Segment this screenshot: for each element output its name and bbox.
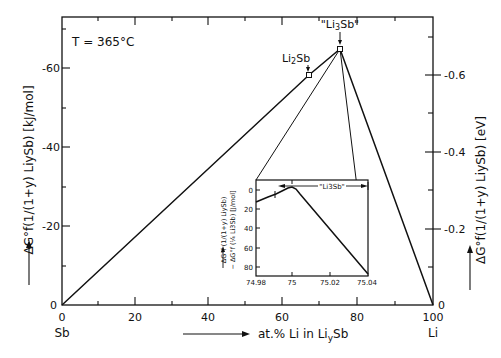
svg-text:ΔG°f (1/(1+y) LiySb): ΔG°f (1/(1+y) LiySb) <box>220 197 228 264</box>
svg-text:60: 60 <box>275 311 289 324</box>
svg-text:20: 20 <box>128 311 142 324</box>
svg-text:-0.2: -0.2 <box>444 223 465 236</box>
svg-text:0: 0 <box>438 299 445 312</box>
svg-text:− ΔG°f (¼ Li3Sb) [J/mol]: − ΔG°f (¼ Li3Sb) [J/mol] <box>229 190 237 269</box>
svg-text:80: 80 <box>350 311 364 324</box>
y-axis-arrow-right-icon <box>467 245 473 290</box>
marker-li2sb <box>307 73 312 78</box>
inset-annotation: "Li3Sb" <box>319 183 345 191</box>
svg-text:-0.6: -0.6 <box>444 69 465 82</box>
y-axis-label-left: ΔG°f(1/(1+y) LiySb) [kJ/mol] <box>22 85 36 254</box>
y-ticks-left <box>62 29 70 266</box>
svg-text:75: 75 <box>288 279 297 287</box>
svg-text:0: 0 <box>249 187 253 195</box>
chart: 0 20 40 60 80 100 0 -20 -40 -60 0 -0.2 -… <box>0 0 501 358</box>
svg-text:0: 0 <box>50 299 57 312</box>
y-tick-labels-right: 0 -0.2 -0.4 -0.6 <box>438 69 465 312</box>
svg-text:40: 40 <box>201 311 215 324</box>
svg-text:80: 80 <box>244 264 253 272</box>
x-axis-arrow-icon <box>183 331 250 337</box>
svg-text:60: 60 <box>244 245 253 253</box>
x-right-label: Li <box>428 326 438 340</box>
x-axis-label: at.% Li in LiySb <box>258 327 348 343</box>
y-axis-arrow-left-icon <box>26 240 32 285</box>
inset-chart: 0 20 40 60 80 74.98 75 75.02 75.04 "Li3S… <box>220 180 378 287</box>
svg-text:-0.4: -0.4 <box>444 146 465 159</box>
svg-text:20: 20 <box>244 206 253 214</box>
svg-text:75.02: 75.02 <box>320 279 340 287</box>
svg-text:-20: -20 <box>42 220 60 233</box>
y-tick-labels-left: 0 -20 -40 -60 <box>42 62 60 312</box>
x-left-label: Sb <box>54 326 69 340</box>
label-li3sb: "Li3Sb" <box>321 18 359 32</box>
marker-li3sb <box>338 47 343 52</box>
svg-text:0: 0 <box>59 311 66 324</box>
label-li2sb: Li2Sb <box>282 52 310 66</box>
svg-text:40: 40 <box>244 225 253 233</box>
svg-text:-40: -40 <box>42 141 60 154</box>
plot-frame <box>62 17 433 305</box>
svg-text:75.04: 75.04 <box>357 279 378 287</box>
svg-text:100: 100 <box>423 311 444 324</box>
svg-text:ΔG°f(1/(1+y) LiySb) [eV]: ΔG°f(1/(1+y) LiySb) [eV] <box>474 116 488 264</box>
svg-text:74.98: 74.98 <box>246 279 266 287</box>
y-axis-label-right: ΔG°f(1/(1+y) LiySb) [eV] <box>474 116 488 264</box>
x-tick-labels: 0 20 40 60 80 100 <box>59 311 444 324</box>
svg-text:ΔG°f(1/(1+y) LiySb) [kJ/mol]: ΔG°f(1/(1+y) LiySb) [kJ/mol] <box>22 85 36 254</box>
temperature-annotation: T = 365°C <box>71 35 134 49</box>
svg-text:-60: -60 <box>42 62 60 75</box>
